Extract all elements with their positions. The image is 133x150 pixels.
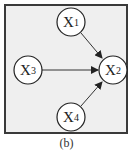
edge-x1-x2	[81, 33, 102, 58]
node-x2-label: X2	[99, 56, 127, 84]
node-x3-label: X3	[14, 56, 42, 84]
node-x1-label: X1	[57, 8, 85, 36]
node-x4-label: X4	[57, 103, 85, 131]
figure-caption: (b)	[0, 136, 133, 150]
